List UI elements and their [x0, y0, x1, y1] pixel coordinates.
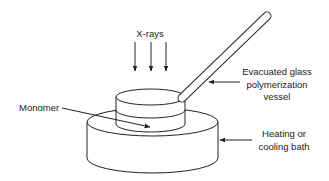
svg-text:cooling bath: cooling bath — [258, 141, 309, 152]
monomer-label: Monomer — [19, 102, 59, 113]
svg-text:vessel: vessel — [264, 91, 291, 102]
svg-text:Heating or: Heating or — [262, 128, 306, 139]
svg-text:Evacuated glass: Evacuated glass — [242, 66, 312, 77]
vessel-label: Evacuated glass polymerization vessel — [242, 66, 312, 102]
xray-arrows — [135, 42, 166, 71]
polymerization-apparatus-diagram: X-rays Monomer Evacuated glass polymeriz… — [0, 0, 329, 181]
bath-label: Heating or cooling bath — [258, 128, 309, 152]
xrays-label: X-rays — [136, 28, 164, 39]
svg-text:polymerization: polymerization — [246, 79, 307, 90]
polymerization-vessel — [116, 89, 185, 132]
